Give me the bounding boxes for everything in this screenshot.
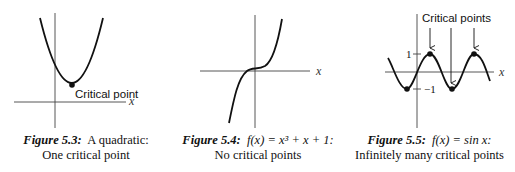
figure-5-3-plot: Critical point x	[14, 13, 139, 128]
x-axis-label: x	[315, 64, 322, 78]
parabola-curve	[40, 18, 103, 83]
critical-point-max-1	[427, 51, 433, 57]
caption-line2: One critical point	[0, 148, 172, 163]
critical-point-min-1	[404, 86, 410, 92]
caption-label: Figure 5.3:	[23, 133, 81, 147]
caption-line2: No critical points	[172, 148, 344, 163]
caption-label: Figure 5.5:	[367, 133, 425, 147]
tick-label-minus-1: −1	[424, 83, 436, 95]
critical-point-min-2	[449, 86, 455, 92]
caption-text: f(x) = x³ + x + 1:	[247, 133, 334, 147]
figure-5-5-plot: Critical points 1 −1 x	[385, 12, 505, 128]
caption-text: f(x) = sin x:	[432, 133, 491, 147]
critical-points-label: Critical points	[422, 12, 491, 24]
x-axis-label: x	[498, 65, 505, 79]
caption-line2: Infinitely many critical points	[344, 148, 515, 163]
critical-point-marker	[69, 82, 75, 88]
figure-5-4-plot: x	[200, 15, 322, 128]
caption-label: Figure 5.4:	[182, 133, 240, 147]
figure-5-3-caption: Figure 5.3: A quadratic: One critical po…	[0, 133, 172, 163]
sine-curve	[388, 54, 490, 89]
critical-point-max-2	[471, 51, 477, 57]
x-axis-label: x	[128, 94, 135, 108]
tick-label-1: 1	[406, 48, 412, 60]
caption-text: A quadratic:	[87, 133, 148, 147]
figure-5-5-caption: Figure 5.5: f(x) = sin x: Infinitely man…	[344, 133, 515, 163]
figure-5-4-caption: Figure 5.4: f(x) = x³ + x + 1: No critic…	[172, 133, 344, 163]
